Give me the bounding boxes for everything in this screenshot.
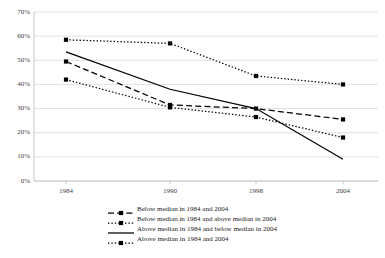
x-tick-label-1984: 1984 — [46, 187, 86, 195]
data-point-marker — [341, 117, 345, 121]
legend-item-0: Below median in 1984 and 2004 — [108, 204, 338, 214]
legend-item-label: Below median in 1984 and above median in… — [137, 214, 276, 224]
line-chart: 0%10%20%30%40%50%60%70% 1984199019982004… — [0, 0, 385, 258]
x-tick-label-1998: 1998 — [236, 187, 276, 195]
y-tick-label-40%: 40% — [2, 80, 30, 88]
data-point-marker — [341, 135, 345, 139]
x-tick-label-2004: 2004 — [323, 187, 363, 195]
legend-item-label: Above median in 1984 and 2004 — [137, 234, 229, 244]
y-tick-label-50%: 50% — [2, 56, 30, 64]
data-point-marker — [168, 105, 172, 109]
y-tick-label-30%: 30% — [2, 104, 30, 112]
y-tick-label-10%: 10% — [2, 152, 30, 160]
legend-item-2: Above median in 1984 and below median in… — [108, 224, 338, 234]
y-tick-label-20%: 20% — [2, 128, 30, 136]
legend-item-3: Above median in 1984 and 2004 — [108, 234, 338, 244]
series-line-3 — [66, 40, 343, 85]
legend-key-icon — [108, 224, 134, 234]
data-point-marker — [64, 38, 68, 42]
data-point-marker — [64, 78, 68, 82]
series-line-2 — [66, 52, 343, 159]
data-point-marker — [168, 41, 172, 45]
legend-item-label: Above median in 1984 and below median in… — [137, 224, 277, 234]
y-tick-label-60%: 60% — [2, 32, 30, 40]
y-tick-label-70%: 70% — [2, 8, 30, 16]
legend-key-icon — [108, 234, 134, 244]
data-point-marker — [254, 74, 258, 78]
legend-marker-sample — [119, 241, 123, 245]
data-point-marker — [254, 115, 258, 119]
chart-legend: Below median in 1984 and 2004Below media… — [108, 204, 338, 244]
legend-item-label: Below median in 1984 and 2004 — [137, 204, 228, 214]
legend-item-1: Below median in 1984 and above median in… — [108, 214, 338, 224]
series-line-0 — [66, 61, 343, 119]
legend-key-icon — [108, 204, 134, 214]
legend-key-icon — [108, 214, 134, 224]
y-tick-label-0%: 0% — [2, 177, 30, 185]
data-point-marker — [64, 59, 68, 63]
data-point-marker — [341, 82, 345, 86]
x-tick-label-1990: 1990 — [150, 187, 190, 195]
